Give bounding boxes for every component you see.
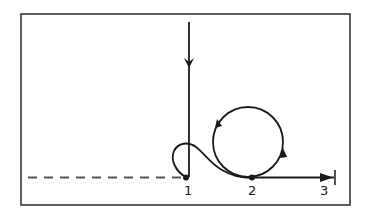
right-arrow-icon [320,173,333,182]
trajectory-diagram: 1 2 3 [0,0,367,212]
point-1-marker [183,175,189,181]
loop-path [173,144,252,178]
point-1-label: 1 [184,183,192,198]
point-2-label: 2 [248,183,256,198]
circular-orbit [213,107,283,177]
point-3-label: 3 [320,183,328,198]
point-2-marker [249,175,255,181]
